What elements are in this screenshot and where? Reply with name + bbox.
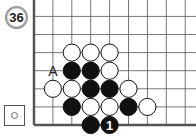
white-stone — [101, 44, 118, 61]
white-stone — [139, 98, 156, 115]
black-stone — [120, 98, 137, 115]
move-number: 1 — [106, 118, 113, 133]
black-stone — [82, 116, 99, 133]
black-stone — [63, 98, 80, 115]
white-stone — [120, 80, 137, 97]
black-stone — [82, 80, 99, 97]
point-label-a: A — [48, 63, 58, 79]
black-stone — [101, 80, 118, 97]
white-stone — [101, 98, 118, 115]
black-stone: 1 — [101, 116, 118, 133]
black-stone — [63, 62, 80, 79]
white-stone — [82, 44, 99, 61]
white-stone — [63, 80, 80, 97]
white-stone — [63, 44, 80, 61]
white-stone — [44, 80, 61, 97]
white-stone — [82, 98, 99, 115]
white-stone — [101, 62, 118, 79]
go-board[interactable]: A1 — [0, 0, 196, 136]
black-stone — [82, 62, 99, 79]
